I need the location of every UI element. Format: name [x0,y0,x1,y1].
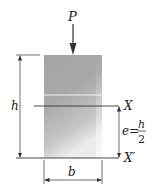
diagram-canvas: P h X X′ e = h 2 b [0,0,155,192]
eccentricity-denominator: 2 [138,133,145,146]
width-label: b [68,165,76,179]
eccentric-load-diagram: P h X X′ e = h 2 b [0,0,155,192]
base-axis-label: X′ [123,151,136,165]
eccentricity-formula: e = h 2 [122,118,146,146]
height-label: h [11,99,19,113]
eccentricity-numerator: h [138,118,145,131]
x-axis-label: X [123,99,133,113]
load-arrow [70,24,77,55]
column-block [44,55,102,158]
load-label: P [67,9,77,24]
